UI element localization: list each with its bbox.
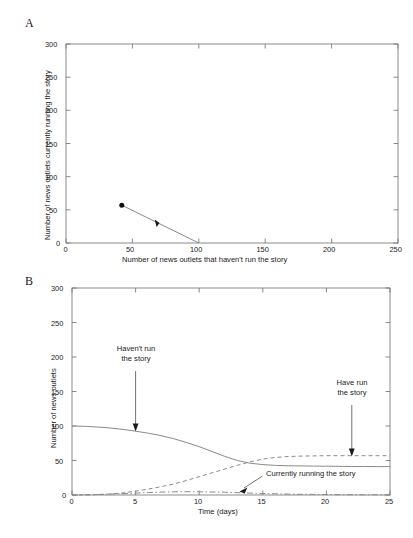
panel-b-xtick-0: 0: [70, 497, 74, 506]
panel-a-xaxis-label: Number of news outlets that haven't run …: [122, 255, 287, 264]
have-run-annotation: Have run the story: [322, 378, 382, 397]
panel-a-ytick-300: 300: [45, 40, 57, 49]
start-point-marker: [119, 203, 124, 208]
panel-b-xtick-25: 25: [385, 497, 393, 506]
panel-a-axes-box: [66, 44, 398, 243]
panel-b-ytick-200: 200: [51, 353, 63, 362]
havent-run-annotation-line2: the story: [104, 354, 168, 364]
panel-a-xtick-0: 0: [64, 245, 68, 254]
panel-b-xtick-15: 15: [258, 497, 266, 506]
panel-b-xtick-5: 5: [133, 497, 137, 506]
have-run-annotation-line1: Have run: [322, 378, 382, 388]
havent-run-annotation: Haven't run the story: [104, 344, 168, 363]
panel-a-ytick-0: 0: [56, 239, 60, 248]
panel-a-xtick-100: 100: [190, 245, 202, 254]
panel-b-ytick-50: 50: [55, 457, 63, 466]
panel-a-xtick-150: 150: [257, 245, 269, 254]
currently-running-annotation: Currently running the story: [266, 469, 386, 479]
havent-run-annotation-line1: Haven't run: [104, 344, 168, 354]
panel-b-xaxis-label: Time (days): [198, 507, 238, 516]
panel-a: A: [0, 0, 413, 268]
panel-a-xtick-50: 50: [126, 245, 134, 254]
panel-a-yaxis-label: Number of news outlets currently running…: [43, 70, 52, 240]
panel-b: B: [0, 268, 413, 538]
currently-running-annotation-line1: Currently running the story: [266, 469, 386, 479]
panel-a-plot: [0, 0, 413, 268]
panel-b-ytick-300: 300: [51, 284, 63, 293]
panel-a-xtick-250: 250: [390, 245, 402, 254]
figure-root: A: [0, 0, 413, 538]
panel-a-xtick-200: 200: [323, 245, 335, 254]
have-run-annotation-line2: the story: [322, 388, 382, 398]
panel-b-yaxis-label: Number of news outlets: [49, 368, 58, 448]
panel-b-xtick-10: 10: [194, 497, 202, 506]
panel-b-ytick-0: 0: [62, 491, 66, 500]
panel-b-ytick-250: 250: [51, 319, 63, 328]
panel-b-xtick-20: 20: [321, 497, 329, 506]
